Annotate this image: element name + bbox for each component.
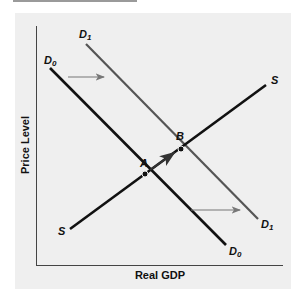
point-b bbox=[178, 146, 184, 152]
x-axis-label: Real GDP bbox=[135, 269, 185, 281]
demand-curve-d0 bbox=[50, 68, 226, 245]
y-axis-label: Price Level bbox=[19, 116, 31, 174]
s-bottom-label: S bbox=[58, 225, 66, 237]
point-a bbox=[142, 171, 148, 177]
d0-top-label: D0 bbox=[44, 54, 57, 68]
ad-as-diagram: Price Level Real GDP A B D1 D0 D1 D0 S S bbox=[0, 0, 301, 302]
d1-bottom-label: D1 bbox=[261, 218, 274, 232]
d0-bottom-label: D0 bbox=[229, 245, 242, 259]
s-top-label: S bbox=[271, 74, 279, 86]
movement-arrow-a-to-b bbox=[150, 153, 174, 170]
d1-top-label: D1 bbox=[79, 28, 92, 42]
point-a-label: A bbox=[139, 157, 148, 169]
point-b-label: B bbox=[176, 130, 184, 142]
